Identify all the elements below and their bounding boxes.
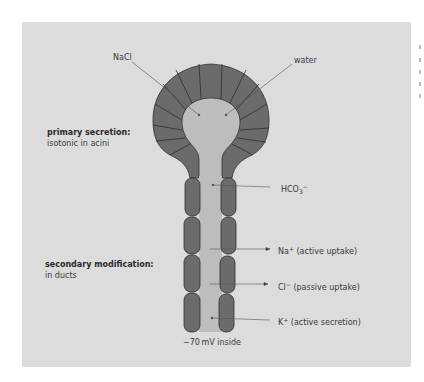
water-label: water: [294, 56, 317, 66]
duct-left-wall: [184, 178, 200, 332]
cl-label: Cl− (passive uptake): [278, 280, 360, 293]
clipped-text-mark: [419, 58, 421, 62]
secondary-modification-desc: in ducts: [45, 271, 77, 281]
k-desc: (active secretion): [288, 318, 361, 327]
na-symbol: Na: [278, 247, 289, 256]
k-label: K+ (active secretion): [278, 315, 361, 328]
na-label: Na+ (active uptake): [278, 244, 357, 257]
cl-symbol: Cl: [278, 283, 286, 292]
cl-desc: (passive uptake): [291, 283, 360, 292]
clipped-text-mark: [419, 70, 421, 74]
secondary-modification-title: secondary modification:: [45, 260, 154, 270]
hco3-label: HCO3−: [281, 182, 308, 197]
clipped-text-mark: [419, 45, 421, 49]
nacl-label: NaCl: [113, 53, 132, 63]
hco3-charge: −: [303, 183, 308, 190]
hco3-base: HCO: [281, 185, 299, 194]
duct-lumen: [199, 176, 222, 332]
primary-secretion-desc: isotonic in acini: [47, 139, 109, 149]
membrane-potential-label: −70 mV inside: [183, 338, 241, 348]
primary-secretion-title: primary secretion:: [47, 128, 130, 138]
clipped-text-mark: [419, 82, 421, 86]
na-desc: (active uptake): [294, 247, 357, 256]
clipped-text-mark: [419, 94, 421, 98]
